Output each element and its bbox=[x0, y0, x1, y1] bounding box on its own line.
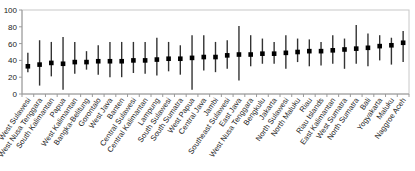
y-tick-label: 80 bbox=[8, 23, 17, 32]
point-marker bbox=[166, 56, 171, 61]
point-marker bbox=[307, 49, 312, 54]
point-marker bbox=[49, 61, 54, 66]
point-marker bbox=[366, 46, 371, 51]
data-point-group bbox=[319, 42, 324, 66]
point-marker bbox=[401, 40, 406, 45]
data-point-group bbox=[307, 39, 312, 66]
data-point-group bbox=[237, 26, 242, 81]
point-marker bbox=[342, 47, 347, 52]
y-tick-label: 100 bbox=[4, 6, 18, 15]
data-point-group bbox=[201, 35, 206, 70]
point-marker bbox=[272, 51, 277, 56]
point-marker bbox=[37, 62, 42, 67]
point-marker bbox=[225, 53, 230, 58]
data-point-group bbox=[213, 42, 218, 72]
data-point-group bbox=[284, 35, 289, 69]
point-marker bbox=[330, 48, 335, 53]
point-marker bbox=[201, 55, 206, 60]
data-point-group bbox=[49, 42, 54, 76]
data-point-group bbox=[72, 42, 77, 74]
data-point-group bbox=[96, 45, 101, 74]
point-marker bbox=[389, 43, 394, 48]
y-tick-label: 60 bbox=[8, 40, 17, 49]
data-point-group bbox=[377, 35, 382, 60]
data-point-group bbox=[166, 42, 171, 71]
data-point-group bbox=[260, 39, 265, 64]
y-tick-label: 40 bbox=[8, 56, 17, 65]
point-marker bbox=[84, 60, 89, 65]
point-marker bbox=[354, 46, 359, 51]
data-point-group bbox=[178, 45, 183, 74]
point-marker bbox=[319, 49, 324, 54]
point-marker bbox=[213, 55, 218, 60]
data-point-group bbox=[155, 38, 160, 76]
data-point-group bbox=[108, 42, 113, 77]
point-marker bbox=[178, 56, 183, 61]
y-tick-label: 0 bbox=[13, 90, 18, 99]
point-marker bbox=[237, 52, 242, 57]
point-marker bbox=[131, 58, 136, 63]
point-marker bbox=[190, 56, 195, 61]
data-points bbox=[26, 25, 406, 90]
data-point-group bbox=[143, 42, 148, 74]
point-marker bbox=[248, 52, 253, 57]
data-point-group bbox=[190, 35, 195, 90]
data-point-group bbox=[131, 42, 136, 73]
data-point-group bbox=[342, 39, 347, 69]
point-marker bbox=[284, 51, 289, 56]
data-point-group bbox=[225, 40, 230, 69]
data-point-group bbox=[330, 35, 335, 64]
data-point-group bbox=[366, 34, 371, 67]
data-point-group bbox=[37, 40, 42, 85]
data-point-group bbox=[401, 31, 406, 62]
point-marker bbox=[377, 44, 382, 49]
data-point-group bbox=[248, 35, 253, 66]
range-dot-chart: 020406080100 West SulawesiWest Nusa Teng… bbox=[0, 0, 415, 171]
point-marker bbox=[155, 57, 160, 62]
point-marker bbox=[295, 50, 300, 55]
data-point-group bbox=[389, 38, 394, 65]
y-tick-label: 20 bbox=[8, 73, 17, 82]
x-axis: West SulawesiWest Nusa TenggaraSouth Kal… bbox=[0, 94, 409, 159]
point-marker bbox=[72, 60, 77, 65]
point-marker bbox=[96, 59, 101, 64]
data-point-group bbox=[26, 53, 31, 72]
data-point-group bbox=[119, 42, 124, 77]
data-point-group bbox=[272, 42, 277, 64]
point-marker bbox=[260, 51, 265, 56]
point-marker bbox=[119, 59, 124, 64]
y-axis: 020406080100 bbox=[4, 6, 22, 99]
data-point-group bbox=[295, 39, 300, 63]
point-marker bbox=[108, 59, 113, 64]
point-marker bbox=[61, 61, 66, 66]
point-marker bbox=[143, 58, 148, 63]
data-point-group bbox=[84, 51, 89, 69]
data-point-group bbox=[354, 25, 359, 64]
point-marker bbox=[26, 64, 31, 69]
data-point-group bbox=[61, 37, 66, 90]
